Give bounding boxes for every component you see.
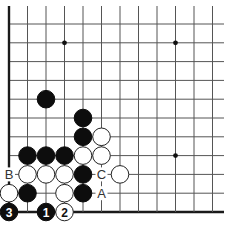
white-stone-circle (111, 166, 129, 184)
white-stone (74, 147, 92, 165)
white-stone-circle (56, 184, 74, 202)
black-stone (19, 147, 37, 165)
black-stone-move-3: 3 (0, 203, 18, 221)
black-stone (37, 90, 55, 108)
move-number: 2 (61, 206, 68, 220)
white-stone (19, 166, 37, 184)
black-stone (74, 184, 92, 202)
white-stone-circle (37, 166, 55, 184)
black-stone-circle (74, 166, 92, 184)
point-label-c: C (96, 167, 108, 182)
white-stone-circle (74, 147, 92, 165)
black-stone-circle (37, 90, 55, 108)
black-stone (37, 147, 55, 165)
white-stone (93, 128, 111, 146)
point-label-text: C (97, 167, 106, 182)
black-stone-circle (37, 147, 55, 165)
white-stone-circle (56, 166, 74, 184)
black-stone-circle (74, 184, 92, 202)
black-stone (56, 147, 74, 165)
go-board: BCA 312 (0, 0, 229, 231)
black-stone (74, 109, 92, 127)
point-label-text: B (5, 167, 14, 182)
black-stone-circle (74, 128, 92, 146)
white-stone (111, 166, 129, 184)
point-label-a: A (96, 186, 108, 201)
white-stone-move-2: 2 (56, 203, 74, 221)
black-stone (74, 166, 92, 184)
black-stone (19, 184, 37, 202)
star-point (62, 40, 67, 45)
white-stone (37, 166, 55, 184)
white-stone-circle (93, 147, 111, 165)
black-stone-move-1: 1 (37, 203, 55, 221)
star-point (173, 40, 178, 45)
white-stone-circle (19, 166, 37, 184)
white-stone (0, 184, 18, 202)
star-point (173, 153, 178, 158)
black-stone-circle (74, 109, 92, 127)
white-stone (56, 184, 74, 202)
black-stone-circle (56, 147, 74, 165)
point-label-b: B (3, 167, 15, 182)
white-stone (93, 147, 111, 165)
point-label-text: A (97, 186, 106, 201)
move-number: 3 (6, 206, 13, 220)
white-stone (56, 166, 74, 184)
move-number: 1 (43, 206, 50, 220)
white-stone-circle (93, 128, 111, 146)
white-stone-circle (0, 184, 18, 202)
black-stone-circle (19, 184, 37, 202)
black-stone-circle (19, 147, 37, 165)
black-stone (74, 128, 92, 146)
